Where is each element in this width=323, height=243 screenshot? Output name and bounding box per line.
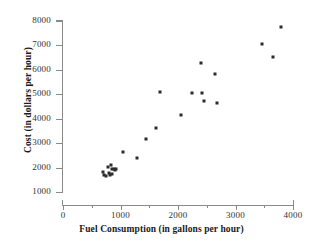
x-axis-title: Fuel Consumption (in gallons per hour) — [0, 224, 323, 234]
y-tick — [56, 94, 62, 95]
data-point — [104, 175, 107, 178]
data-point — [216, 101, 219, 104]
data-point — [159, 90, 162, 93]
y-tick — [56, 119, 62, 120]
data-point — [200, 61, 203, 64]
x-minor-tick — [149, 205, 150, 208]
data-point — [214, 73, 217, 76]
data-point — [201, 91, 204, 94]
plot-area — [63, 21, 293, 192]
x-tick-label: 4000 — [273, 210, 313, 220]
data-point — [202, 99, 205, 102]
data-point — [114, 168, 117, 171]
y-axis-title: Cost (in dollars per hour) — [23, 10, 33, 190]
x-minor-tick — [92, 205, 93, 208]
data-point — [260, 43, 263, 46]
y-tick — [56, 168, 62, 169]
y-tick — [56, 21, 62, 22]
x-tick-label: 2000 — [158, 210, 198, 220]
data-point — [111, 173, 114, 176]
data-point — [136, 157, 139, 160]
x-minor-tick — [207, 205, 208, 208]
data-point — [155, 127, 158, 130]
x-tick-label: 3000 — [216, 210, 256, 220]
y-tick — [56, 45, 62, 46]
scatter-plot-figure: 10002000300040005000600070008000 0100020… — [0, 0, 323, 243]
data-point — [190, 91, 193, 94]
data-point — [144, 137, 147, 140]
x-tick-label: 1000 — [101, 210, 141, 220]
y-tick — [56, 192, 62, 193]
data-point — [122, 151, 125, 154]
data-point — [179, 113, 182, 116]
data-point — [279, 26, 282, 29]
x-tick-label: 0 — [43, 210, 83, 220]
y-tick — [56, 143, 62, 144]
data-point — [272, 55, 275, 58]
x-minor-tick — [264, 205, 265, 208]
y-tick — [56, 70, 62, 71]
